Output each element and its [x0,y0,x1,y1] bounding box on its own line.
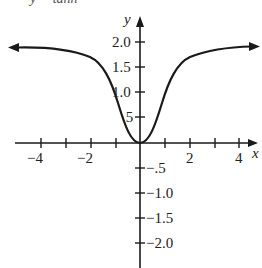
x-axis-label: x [251,145,259,161]
x-tick-label: −4 [27,150,43,166]
y-tick-label: .5 [122,109,133,125]
x-tick-label: 2 [186,150,194,166]
y-tick-label: −2.0 [146,235,173,251]
x-tick-label: 4 [235,150,243,166]
y-tick-label: 2.0 [112,34,131,50]
y-tick-label: −.5 [146,160,166,176]
y-tick-label: 1.0 [112,84,131,100]
y-axis-label: y [122,11,131,27]
curve [8,42,260,143]
x-tick-label: −2 [77,150,93,166]
y-tick-label: 1.5 [112,59,131,75]
y-tick-label: −1.0 [146,185,173,201]
chart: y x −4 −2 2 4 2.0 1.5 1.0 .5 −.5 −1.0 −1… [0,0,262,268]
y-tick-label: −1.5 [146,210,173,226]
y-axis-arrow-icon [136,16,144,27]
curve-left-arrow-icon [8,43,19,52]
curve-right-arrow-icon [249,42,260,51]
